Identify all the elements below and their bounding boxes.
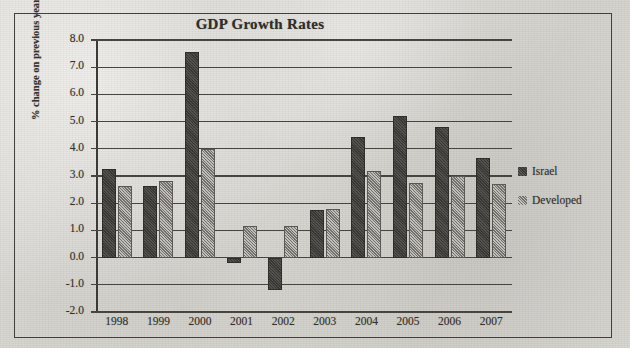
bar-group bbox=[221, 40, 263, 312]
y-axis-tick-mark bbox=[91, 121, 96, 122]
legend-swatch-icon-israel bbox=[518, 167, 527, 176]
y-axis-tick-label: 0.0 bbox=[44, 250, 84, 262]
y-axis-tick-mark bbox=[91, 39, 96, 40]
bar-developed-1999 bbox=[159, 181, 173, 257]
bar-developed-1998 bbox=[118, 186, 132, 258]
bars-layer bbox=[96, 40, 512, 312]
y-axis-tick-mark bbox=[91, 94, 96, 95]
bar-developed-2006 bbox=[451, 176, 465, 258]
bar-developed-2003 bbox=[326, 209, 340, 258]
y-axis-tick-label: 2.0 bbox=[44, 195, 84, 207]
y-axis-tick-label: 4.0 bbox=[44, 141, 84, 153]
y-axis-tick-label: -2.0 bbox=[44, 304, 84, 316]
bar-group bbox=[138, 40, 180, 312]
x-axis-tick-label: 1998 bbox=[95, 315, 139, 327]
bar-developed-2004 bbox=[367, 171, 381, 258]
bar-israel-2001 bbox=[227, 258, 241, 263]
bar-israel-2000 bbox=[185, 52, 199, 257]
legend-entry-israel: Israel bbox=[518, 165, 604, 177]
y-axis-tick-label: -1.0 bbox=[44, 277, 84, 289]
bar-israel-2003 bbox=[310, 210, 324, 258]
legend-label: Developed bbox=[532, 194, 582, 206]
bar-developed-2000 bbox=[201, 149, 215, 258]
x-axis-tick-label: 2005 bbox=[386, 315, 430, 327]
legend-label: Israel bbox=[532, 165, 558, 177]
y-axis-title: % change on previous year bbox=[30, 0, 41, 120]
x-axis-tick-label: 2006 bbox=[428, 315, 472, 327]
y-axis-tick-label: 6.0 bbox=[44, 86, 84, 98]
bar-israel-2007 bbox=[476, 158, 490, 257]
x-axis-tick-label: 2001 bbox=[220, 315, 264, 327]
bar-developed-2001 bbox=[243, 226, 257, 257]
x-axis-tick-label: 2002 bbox=[261, 315, 305, 327]
bar-group bbox=[96, 40, 138, 312]
bar-developed-2007 bbox=[492, 184, 506, 257]
bar-group bbox=[387, 40, 429, 312]
bar-group bbox=[429, 40, 471, 312]
bar-group bbox=[346, 40, 388, 312]
legend-swatch-icon-developed bbox=[518, 196, 527, 205]
y-axis-tick-mark bbox=[91, 257, 96, 258]
bar-group bbox=[304, 40, 346, 312]
legend-entry-developed: Developed bbox=[518, 194, 604, 206]
chart-title: GDP Growth Rates bbox=[0, 16, 520, 33]
x-axis-tick-label: 2007 bbox=[469, 315, 513, 327]
bar-israel-1999 bbox=[143, 186, 157, 258]
bar-israel-2006 bbox=[435, 127, 449, 258]
y-axis-tick-mark bbox=[91, 148, 96, 149]
y-axis-tick-mark bbox=[91, 175, 96, 176]
x-axis-tick-label: 2000 bbox=[178, 315, 222, 327]
y-axis-tick-mark bbox=[91, 284, 96, 285]
plot-area bbox=[96, 40, 512, 312]
x-axis-tick-label: 1999 bbox=[136, 315, 180, 327]
bar-developed-2005 bbox=[409, 183, 423, 258]
y-axis-tick-label: 3.0 bbox=[44, 168, 84, 180]
bar-group bbox=[470, 40, 512, 312]
y-axis-tick-label: 5.0 bbox=[44, 114, 84, 126]
bar-israel-1998 bbox=[102, 169, 116, 257]
x-axis-tick-label: 2003 bbox=[303, 315, 347, 327]
bar-israel-2004 bbox=[351, 137, 365, 258]
y-axis-tick-mark bbox=[91, 203, 96, 204]
y-axis-tick-label: 7.0 bbox=[44, 59, 84, 71]
chart-legend: IsraelDeveloped bbox=[518, 165, 604, 223]
bar-israel-2002 bbox=[268, 258, 282, 291]
y-axis-tick-label: 8.0 bbox=[44, 32, 84, 44]
x-axis-tick-label: 2004 bbox=[344, 315, 388, 327]
bar-israel-2005 bbox=[393, 116, 407, 257]
bar-group bbox=[262, 40, 304, 312]
x-axis-tick-labels: 1998199920002001200220032004200520062007 bbox=[96, 312, 512, 334]
bar-developed-2002 bbox=[284, 226, 298, 257]
bar-group bbox=[179, 40, 221, 312]
y-axis-tick-label: 1.0 bbox=[44, 222, 84, 234]
y-axis-tick-mark bbox=[91, 230, 96, 231]
y-axis-tick-mark bbox=[91, 67, 96, 68]
